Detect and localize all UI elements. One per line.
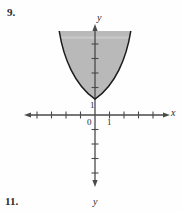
x-axis-arrow-right	[163, 112, 170, 117]
y-axis-arrow-top	[92, 24, 97, 31]
x-unit-tick-label: 1	[107, 118, 112, 127]
y-axis-label-next-figure: y	[93, 197, 97, 207]
problem-number-11: 11.	[5, 196, 18, 207]
figure-page: 9.	[0, 0, 182, 212]
x-axis	[24, 112, 170, 119]
x-axis-arrow-left	[24, 112, 31, 117]
y-axis-arrow-bottom	[92, 180, 97, 187]
origin-label: 0	[87, 118, 92, 127]
x-axis-label: x	[171, 108, 175, 118]
y-axis-label-top: y	[97, 13, 101, 23]
y-intercept-tick-label: 1	[90, 101, 95, 110]
